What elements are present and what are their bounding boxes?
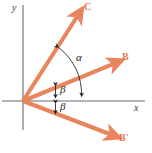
vector-b-prime-arrow <box>23 101 111 135</box>
y-axis-label: y <box>12 3 16 13</box>
alpha-angle-label: α <box>76 52 82 63</box>
vector-b-label: B <box>122 52 129 62</box>
x-axis-label: x <box>134 103 138 113</box>
vector-arrows <box>23 16 114 135</box>
beta-upper-angle-label: β <box>60 84 65 95</box>
beta-lower-angle-label: β <box>60 101 65 112</box>
vector-diagram-figure: y x C B B' α β β <box>0 0 152 153</box>
vector-b-prime-label: B' <box>119 133 128 143</box>
diagram-canvas <box>0 0 152 153</box>
vector-c-label: C <box>84 2 91 12</box>
